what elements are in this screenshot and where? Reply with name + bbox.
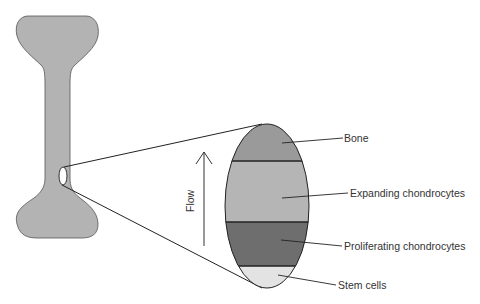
flow-label: Flow [184,189,196,212]
long-bone-shape [16,16,98,238]
growth-plate-zones [220,120,320,292]
zone-bone [220,120,320,161]
sample-section-marker [59,167,67,185]
label-bone: Bone [344,132,369,144]
label-expanding-chondrocytes: Expanding chondrocytes [350,187,465,199]
label-stem-cells: Stem cells [338,279,386,291]
growth-plate-diagram: Flow Bone Expanding chondrocytes Prolife… [0,0,480,304]
label-proliferating-chondrocytes: Proliferating chondrocytes [344,240,465,252]
